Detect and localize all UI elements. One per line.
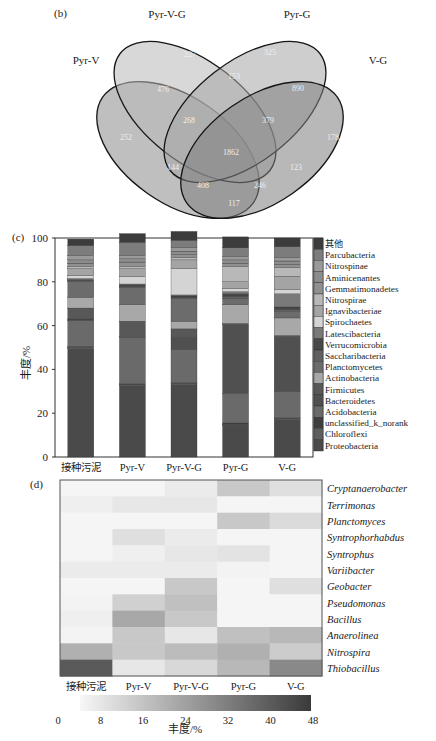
heatmap-cell — [112, 496, 165, 513]
heatmap-cell — [270, 660, 323, 677]
heatmap-cell — [60, 578, 113, 595]
legend-label: Nitrospirae — [325, 295, 366, 305]
legend-swatch — [314, 395, 323, 406]
heatmap-cell — [60, 611, 113, 628]
panel-label-d: (d) — [30, 478, 43, 491]
heatmap-col-label: V-G — [287, 681, 305, 692]
bar-segment-bacteroidetes — [223, 325, 249, 394]
legend-swatch — [314, 372, 323, 383]
heatmap-cell — [270, 643, 323, 660]
bar-segment-parcubacteria — [274, 247, 300, 258]
bar-segment-firmicutes — [171, 329, 197, 337]
venn-region-value: 227 — [184, 50, 196, 59]
bar-segment-proteobacteria — [68, 349, 94, 457]
bar-segment-firmicutes — [119, 321, 145, 336]
legend-swatch — [314, 294, 323, 305]
legend-swatch — [314, 283, 323, 294]
bar-segment-spirochaetes — [223, 288, 249, 291]
venn-region-value: 178 — [327, 133, 339, 142]
legend-swatch — [314, 417, 323, 428]
heatmap-row-label: Syntrophus — [327, 549, 374, 560]
legend-label: Firmicutes — [325, 385, 365, 395]
bar-1 — [119, 234, 145, 457]
venn-region-value: 325 — [264, 48, 276, 57]
colorbar-tick-label: 8 — [98, 715, 103, 726]
heatmap-cell — [217, 562, 270, 579]
bar-segment-chloroflexi — [274, 419, 300, 420]
bar-segment-actinobacteria — [274, 318, 300, 336]
heatmap-cell — [217, 480, 270, 497]
panel-label-c: (c) — [12, 231, 25, 244]
bar-segment-nitrospirae — [68, 266, 94, 268]
legend-label: Aminicenantes — [325, 273, 381, 283]
bar-segment-bacteroidetes — [171, 337, 197, 350]
heatmap-cell — [112, 627, 165, 644]
heatmap-row-label: Pseudomonas — [326, 598, 385, 609]
heatmap-row-label: Bacillus — [327, 614, 361, 625]
heatmap-cell — [60, 496, 113, 513]
bar-segment-planctomycetes — [68, 282, 94, 297]
bar-segment-ignavibacteriae — [119, 269, 145, 277]
x-tick-label: Pyr-G — [223, 462, 249, 473]
colorbar-tick-label: 40 — [265, 715, 276, 726]
heatmap-cell — [60, 594, 113, 611]
y-axis-label: 丰度/% — [19, 346, 32, 380]
heatmap-cell — [165, 643, 218, 660]
bar-segment-parcubacteria — [119, 242, 145, 255]
bar-segment-acidobacteria — [68, 320, 94, 346]
heatmap-cell — [60, 529, 113, 546]
heatmap-col-label: Pyr-G — [231, 681, 257, 692]
bar-segment-acidobacteria — [119, 338, 145, 384]
heatmap-cell — [60, 643, 113, 660]
bar-segment-spirochaetes — [68, 275, 94, 278]
heatmap-row-label: Variibacter — [327, 565, 375, 576]
bar-segment-nitrospinae — [171, 248, 197, 251]
heatmap-col-label: 接种污泥 — [66, 680, 107, 692]
bar-segment-proteobacteria — [223, 425, 249, 457]
bar-segment-item — [171, 231, 197, 240]
bar-segment-nitrospirae — [223, 266, 249, 281]
heatmap-cell — [165, 627, 218, 644]
venn-region-value: 123 — [290, 163, 302, 172]
colorbar-tick-label: 0 — [55, 715, 60, 726]
venn-region-value: 1862 — [223, 148, 239, 157]
bar-segment-unclassified-k-norank — [171, 383, 197, 384]
y-tick-label: 80 — [37, 276, 49, 288]
bar-segment-verrucomicrobia — [274, 307, 300, 309]
legend-swatch — [314, 440, 323, 451]
bar-segment-spirochaetes — [171, 269, 197, 295]
bar-segment-aminicenantes — [274, 261, 300, 264]
legend-label: Proteobacteria — [325, 441, 378, 451]
bar-segment-latescibacteria — [274, 294, 300, 307]
venn-set-label: Pyr-G — [284, 8, 311, 20]
heatmap-row-label: Syntrophorhabdus — [327, 532, 404, 543]
heatmap-cell — [165, 496, 218, 513]
heatmap-cell — [270, 611, 323, 628]
heatmap-cell — [165, 545, 218, 562]
heatmap-cell — [217, 545, 270, 562]
bar-segment-actinobacteria — [171, 321, 197, 329]
heatmap-cell — [112, 594, 165, 611]
heatmap-cell — [217, 513, 270, 530]
legend-swatch — [314, 260, 323, 271]
heatmap-cell — [112, 660, 165, 677]
heatmap-cell — [112, 611, 165, 628]
bar-segment-nitrospinae — [274, 258, 300, 261]
bar-segment-gemmatimonadetes — [171, 254, 197, 257]
bar-segment-unclassified-k-norank — [119, 384, 145, 385]
heatmap-cell — [112, 529, 165, 546]
legend-label: Chloroflexi — [325, 429, 368, 439]
y-tick-label: 20 — [37, 407, 49, 419]
bar-segment-verrucomicrobia — [223, 294, 249, 296]
heatmap-cell — [165, 660, 218, 677]
bar-segment-firmicutes — [223, 323, 249, 324]
bar-segment-unclassified-k-norank — [274, 418, 300, 419]
venn-set-label: Pyr-V — [73, 54, 100, 66]
bar-segment-firmicutes — [274, 335, 300, 336]
bar-segment-planctomycetes — [274, 311, 300, 318]
bar-segment-saccharibacteria — [119, 286, 145, 287]
colorbar-tick-label: 32 — [223, 715, 234, 726]
venn-region-value: 252 — [120, 133, 132, 142]
bar-segment-aminicenantes — [119, 259, 145, 262]
legend-swatch — [314, 339, 323, 350]
